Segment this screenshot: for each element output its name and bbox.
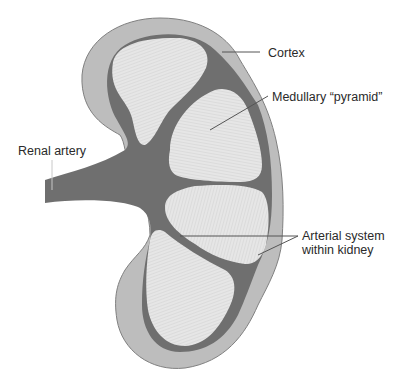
label-cortex: Cortex [268, 46, 305, 60]
label-medullary-pyramid: Medullary “pyramid” [272, 90, 382, 104]
kidney-diagram [0, 0, 396, 384]
label-renal-artery: Renal artery [18, 144, 86, 158]
label-arterial-system-line1: Arterial system [302, 229, 385, 243]
label-arterial-system-line2: within kidney [302, 243, 374, 257]
